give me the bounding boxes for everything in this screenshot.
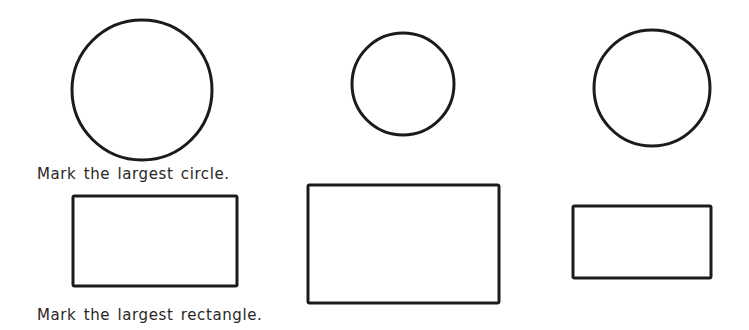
circle-instruction: Mark the largest circle. [37, 165, 230, 183]
rectangle-3[interactable] [573, 206, 711, 278]
rectangle-instruction: Mark the largest rectangle. [37, 306, 262, 324]
circles-row [72, 20, 710, 160]
rectangles-row [73, 185, 711, 303]
circle-3[interactable] [594, 30, 710, 146]
circle-2[interactable] [352, 33, 454, 135]
rectangle-1[interactable] [73, 196, 237, 286]
rectangle-2[interactable] [308, 185, 499, 303]
circle-1[interactable] [72, 20, 212, 160]
